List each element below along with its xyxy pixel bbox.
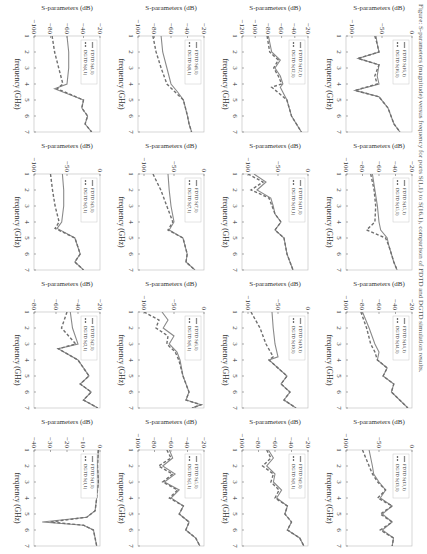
svg-text:frequency (GHz): frequency (GHz) [13, 472, 22, 524]
figure-caption: Figure: S-parameters (magnitude) versus … [413, 0, 427, 554]
svg-text:−20: −20 [200, 437, 208, 448]
svg-text:−100: −100 [140, 296, 148, 311]
svg-text:−80: −80 [150, 437, 158, 448]
chart-panel-s-14-1: 1234567−20−40−60−80−100frequency (GHz)S-… [314, 278, 418, 414]
svg-text:FDTD S(6,1): FDTD S(6,1) [193, 326, 199, 351]
svg-text:1: 1 [335, 172, 343, 176]
svg-text:−100: −100 [244, 296, 252, 311]
svg-text:DGTD S(5,1): DGTD S(5,1) [186, 464, 192, 490]
svg-text:FDTD S(15,1): FDTD S(15,1) [401, 188, 407, 215]
chart-panel-s-6-1: 12345670−50−100frequency (GHz)S-paramete… [106, 278, 210, 414]
chart-panel-s-16-1: 12345670−50−100frequency (GHz)S-paramete… [314, 2, 418, 138]
svg-text:1: 1 [127, 172, 135, 176]
svg-text:frequency (GHz): frequency (GHz) [221, 334, 230, 386]
svg-text:frequency (GHz): frequency (GHz) [117, 334, 126, 386]
svg-text:2: 2 [127, 50, 135, 54]
svg-text:−30: −30 [46, 437, 54, 448]
svg-text:7: 7 [335, 130, 343, 134]
svg-text:FDTD S(16,1): FDTD S(16,1) [401, 50, 407, 77]
svg-text:−40: −40 [287, 437, 295, 448]
svg-text:4: 4 [335, 358, 343, 362]
chart-panel-s-4-1: 1234567−20−40−60−80−100frequency (GHz)S-… [2, 2, 106, 138]
svg-text:frequency (GHz): frequency (GHz) [13, 196, 22, 248]
svg-text:−100: −100 [134, 434, 142, 449]
svg-text:5: 5 [23, 512, 31, 516]
svg-text:S-parameters (dB): S-parameters (dB) [353, 280, 405, 288]
svg-text:S-parameters (dB): S-parameters (dB) [249, 4, 301, 12]
svg-text:5: 5 [231, 374, 239, 378]
svg-text:1: 1 [23, 172, 31, 176]
svg-text:−100: −100 [251, 20, 259, 35]
svg-text:S-parameters (dB): S-parameters (dB) [353, 142, 405, 150]
svg-text:DGTD S(11,1): DGTD S(11,1) [290, 188, 296, 216]
svg-text:4: 4 [231, 82, 239, 86]
svg-text:0: 0 [200, 169, 208, 173]
svg-text:−80: −80 [46, 23, 54, 34]
svg-text:DGTD S(4,1): DGTD S(4,1) [82, 50, 88, 76]
svg-text:4: 4 [23, 220, 31, 224]
svg-text:FDTD S(4,1): FDTD S(4,1) [89, 50, 95, 75]
svg-text:−40: −40 [290, 23, 298, 34]
svg-text:−80: −80 [30, 299, 38, 310]
svg-text:2: 2 [23, 464, 31, 468]
svg-text:frequency (GHz): frequency (GHz) [221, 196, 230, 248]
svg-text:−40: −40 [30, 437, 38, 448]
svg-text:−100: −100 [348, 20, 356, 35]
svg-text:2: 2 [335, 50, 343, 54]
chart-panel-s-1-1: 12345670−10−20−30−40frequency (GHz)S-par… [2, 416, 106, 552]
svg-text:−40: −40 [391, 161, 399, 172]
svg-text:−100: −100 [342, 434, 350, 449]
svg-text:−100: −100 [342, 158, 350, 173]
svg-text:6: 6 [127, 390, 135, 394]
svg-text:DGTD S(13,1): DGTD S(13,1) [394, 464, 400, 492]
svg-text:5: 5 [335, 374, 343, 378]
svg-text:FDTD S(1,1): FDTD S(1,1) [89, 464, 95, 489]
svg-text:5: 5 [127, 512, 135, 516]
svg-text:4: 4 [23, 496, 31, 500]
svg-text:−20: −20 [63, 437, 71, 448]
svg-text:2: 2 [231, 326, 239, 330]
svg-text:1: 1 [23, 310, 31, 314]
svg-text:5: 5 [23, 236, 31, 240]
svg-text:−80: −80 [150, 23, 158, 34]
chart-panel-s-9-1: 1234567−20−40−60−80−100frequency (GHz)S-… [210, 416, 314, 552]
svg-text:3: 3 [127, 480, 135, 484]
svg-text:−50: −50 [274, 299, 282, 310]
caption-text: Figure: S-parameters (magnitude) versus … [417, 4, 425, 554]
svg-text:−50: −50 [170, 299, 178, 310]
svg-text:5: 5 [23, 98, 31, 102]
svg-text:5: 5 [335, 512, 343, 516]
svg-text:7: 7 [335, 406, 343, 410]
svg-text:7: 7 [127, 130, 135, 134]
svg-text:FDTD S(13,1): FDTD S(13,1) [401, 464, 407, 491]
svg-text:2: 2 [335, 188, 343, 192]
svg-text:7: 7 [231, 130, 239, 134]
svg-text:DGTD S(10,1): DGTD S(10,1) [290, 326, 296, 354]
svg-text:5: 5 [231, 512, 239, 516]
svg-text:0: 0 [304, 307, 312, 311]
svg-text:−40: −40 [391, 299, 399, 310]
svg-text:1: 1 [231, 448, 239, 452]
svg-text:0: 0 [304, 169, 312, 173]
svg-text:S-parameters (dB): S-parameters (dB) [353, 418, 405, 426]
svg-text:3: 3 [23, 342, 31, 346]
svg-text:2: 2 [231, 188, 239, 192]
svg-text:−20: −20 [304, 437, 312, 448]
svg-text:DGTD S(12,1): DGTD S(12,1) [290, 50, 296, 78]
svg-text:FDTD S(14,1): FDTD S(14,1) [401, 326, 407, 353]
svg-text:5: 5 [23, 374, 31, 378]
chart-panel-s-8-1: 1234567−20−40−60−80−100frequency (GHz)S-… [106, 2, 210, 138]
svg-text:5: 5 [231, 98, 239, 102]
svg-text:2: 2 [23, 188, 31, 192]
svg-text:3: 3 [127, 66, 135, 70]
svg-text:1: 1 [231, 172, 239, 176]
svg-text:2: 2 [335, 326, 343, 330]
svg-text:−60: −60 [167, 23, 175, 34]
svg-text:FDTD S(5,1): FDTD S(5,1) [193, 464, 199, 489]
svg-text:S-parameters (dB): S-parameters (dB) [41, 280, 93, 288]
svg-text:3: 3 [231, 66, 239, 70]
svg-text:7: 7 [127, 268, 135, 272]
svg-text:DGTD S(8,1): DGTD S(8,1) [186, 50, 192, 76]
svg-text:2: 2 [23, 326, 31, 330]
svg-text:frequency (GHz): frequency (GHz) [117, 472, 126, 524]
